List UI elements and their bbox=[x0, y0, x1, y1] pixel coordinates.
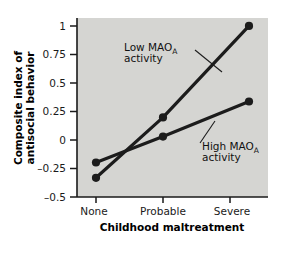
y-tick-label: 0 bbox=[59, 134, 66, 146]
line-chart: 1 0.75 0.5 0.25 0 –0.25 –0.5 None Probab… bbox=[0, 0, 288, 255]
chart-container: 1 0.75 0.5 0.25 0 –0.25 –0.5 None Probab… bbox=[0, 0, 288, 255]
x-tick-label-probable: Probable bbox=[140, 205, 186, 217]
data-point-low-maoa-probable bbox=[159, 113, 167, 121]
y-axis-title: Composite index of antisocial behavior bbox=[12, 50, 36, 165]
x-tick-label-severe: Severe bbox=[214, 205, 250, 217]
annotation-high-maoa-subscript: A bbox=[254, 146, 260, 155]
x-axis-title: Childhood maltreatment bbox=[100, 221, 245, 233]
y-tick-label: 0.25 bbox=[43, 105, 66, 117]
y-tick-label: –0.25 bbox=[37, 162, 66, 174]
y-tick-label: 1 bbox=[59, 20, 66, 32]
x-axis-tick-labels: None Probable Severe bbox=[80, 205, 250, 217]
y-axis-tick-labels: 1 0.75 0.5 0.25 0 –0.25 –0.5 bbox=[37, 20, 66, 203]
data-point-high-maoa-probable bbox=[159, 133, 167, 141]
y-axis-ticks bbox=[70, 26, 77, 197]
x-axis-ticks bbox=[96, 197, 230, 203]
y-tick-label: –0.5 bbox=[44, 191, 66, 203]
data-point-low-maoa-severe bbox=[245, 22, 253, 30]
annotation-low-maoa-subscript: A bbox=[172, 47, 178, 56]
y-axis-title-line1: Composite index of bbox=[12, 50, 24, 165]
annotation-low-maoa-line2: activity bbox=[124, 52, 163, 64]
x-tick-label-none: None bbox=[80, 205, 107, 217]
y-tick-label: 0.75 bbox=[43, 48, 66, 60]
data-point-high-maoa-severe bbox=[245, 97, 253, 105]
y-axis-title-line2: antisocial behavior bbox=[24, 51, 36, 165]
data-point-low-maoa-none bbox=[92, 174, 100, 182]
annotation-high-maoa-line2: activity bbox=[202, 151, 241, 163]
data-point-high-maoa-none bbox=[92, 158, 100, 166]
y-tick-label: 0.5 bbox=[49, 77, 66, 89]
